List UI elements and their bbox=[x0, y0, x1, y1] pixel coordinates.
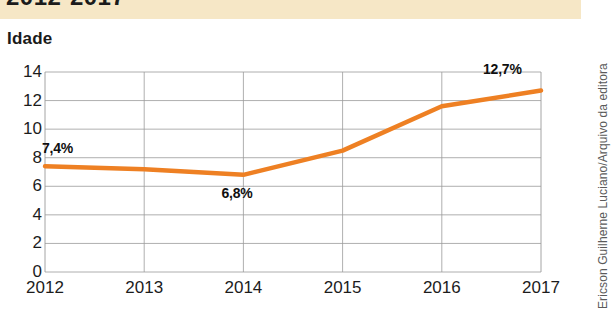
photo-credit: Ericson Guilherne Luciano/Arquivo da edi… bbox=[592, 0, 613, 313]
x-tick-label: 2016 bbox=[423, 278, 461, 298]
chart-svg bbox=[0, 0, 613, 313]
photo-credit-text: Ericson Guilherne Luciano/Arquivo da edi… bbox=[596, 63, 610, 309]
data-label: 6,8% bbox=[221, 185, 252, 201]
x-tick-label: 2012 bbox=[26, 278, 64, 298]
y-tick-label: 6 bbox=[4, 176, 42, 196]
x-tick-label: 2014 bbox=[224, 278, 262, 298]
data-label: 7,4% bbox=[42, 140, 73, 156]
x-tick-label: 2017 bbox=[522, 278, 560, 298]
plot-area: 02468101214 201220132014201520162017 7,4… bbox=[0, 0, 613, 313]
y-tick-label: 14 bbox=[4, 62, 42, 82]
y-tick-label: 8 bbox=[4, 148, 42, 168]
x-tick-label: 2015 bbox=[324, 278, 362, 298]
y-axis-ticks: 02468101214 bbox=[0, 0, 42, 313]
y-tick-label: 2 bbox=[4, 233, 42, 253]
data-label: 12,7% bbox=[483, 61, 522, 77]
data-line-series bbox=[45, 91, 541, 175]
y-tick-label: 10 bbox=[4, 119, 42, 139]
y-tick-label: 12 bbox=[4, 91, 42, 111]
y-tick-label: 4 bbox=[4, 205, 42, 225]
x-tick-label: 2013 bbox=[125, 278, 163, 298]
chart-figure: 2012-2017 Idade 02468101214 201220132014… bbox=[0, 0, 613, 313]
